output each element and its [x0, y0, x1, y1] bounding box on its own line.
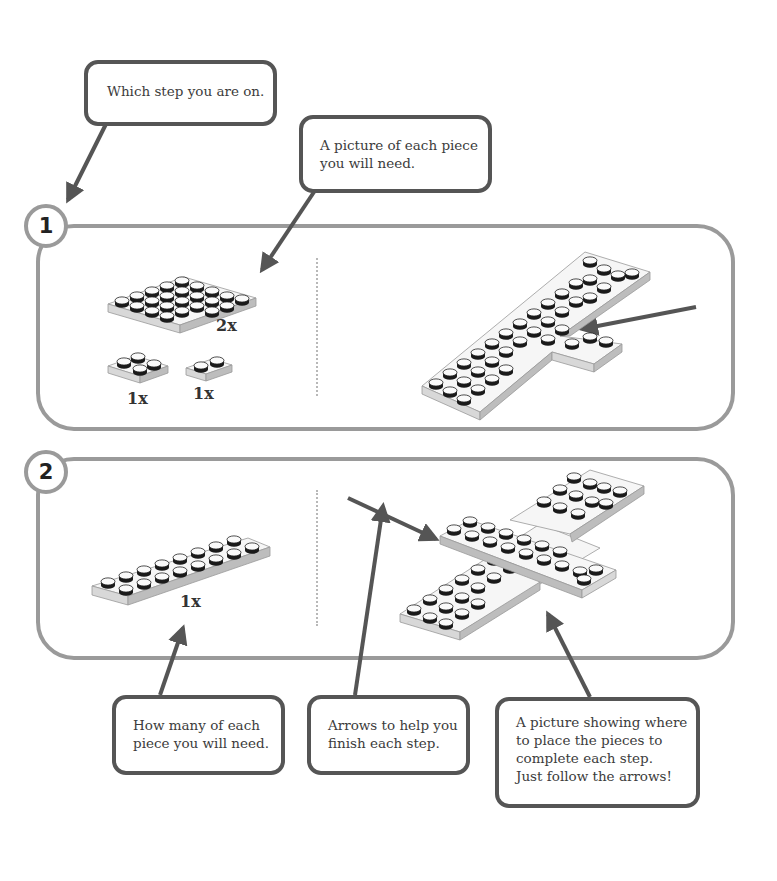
callout-arrows: Arrows to help you finish each step. — [307, 695, 470, 775]
step-2-panel — [36, 457, 735, 660]
step-number: 1 — [39, 214, 54, 238]
callout-text: finish each step. — [328, 734, 466, 752]
callout-text: you will need. — [320, 154, 488, 172]
callout-text: piece you will need. — [133, 734, 281, 752]
arrow-to-step-badge — [68, 124, 106, 200]
step-1-badge: 1 — [24, 204, 68, 248]
step-2-divider — [316, 490, 318, 626]
quantity-label: 1x — [193, 384, 214, 403]
callout-placement: A picture showing where to place the pie… — [495, 697, 700, 808]
callout-text: How many of each — [133, 716, 281, 734]
callout-quantity: How many of each piece you will need. — [112, 695, 285, 775]
callout-text: Which step you are on. — [107, 82, 273, 100]
step-2-badge: 2 — [24, 450, 68, 494]
callout-piece-picture: A picture of each piece you will need. — [299, 115, 492, 193]
quantity-label: 1x — [127, 389, 148, 408]
callout-text: to place the pieces to — [516, 731, 696, 749]
step-number: 2 — [39, 460, 54, 484]
callout-text: complete each step. — [516, 749, 696, 767]
quantity-label: 1x — [180, 592, 201, 611]
callout-text: A picture showing where — [516, 713, 696, 731]
callout-text: Just follow the arrows! — [516, 767, 696, 785]
step-1-divider — [316, 258, 318, 396]
callout-step-indicator: Which step you are on. — [84, 60, 277, 126]
callout-text: Arrows to help you — [328, 716, 466, 734]
callout-text: A picture of each piece — [320, 136, 488, 154]
quantity-label: 2x — [216, 316, 237, 335]
